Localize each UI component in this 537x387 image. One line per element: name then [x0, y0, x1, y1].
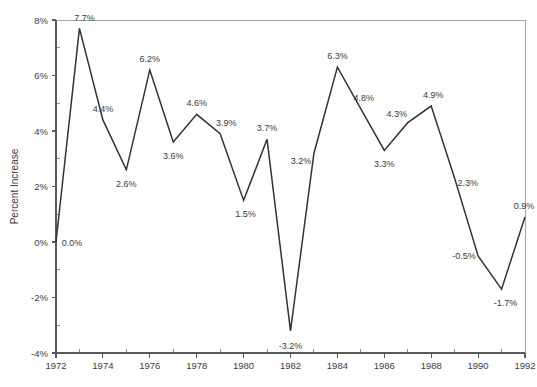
data-point-label: 2.3%	[457, 178, 478, 188]
data-point-label: 3.9%	[216, 118, 237, 128]
y-tick-label: 6%	[34, 70, 48, 81]
y-tick-label: -2%	[31, 292, 48, 303]
x-axis-major-ticks	[56, 353, 525, 358]
data-point-label: 4.8%	[354, 93, 375, 103]
y-tick-label: 8%	[34, 15, 48, 26]
x-tick-label: 1980	[233, 360, 254, 371]
data-point-label: 4.4%	[93, 104, 114, 114]
y-tick-label: -4%	[31, 348, 48, 359]
data-point-label: 4.3%	[386, 109, 407, 119]
x-tick-label: 1984	[327, 360, 348, 371]
x-tick-label: 1986	[374, 360, 395, 371]
line-chart-figure: 8%6%4%2%0%-2%-4% 19721974197619781980198…	[0, 0, 537, 387]
data-point-label: 7.7%	[74, 13, 95, 23]
y-tick-label: 2%	[34, 181, 48, 192]
data-point-label: 3.6%	[163, 151, 184, 161]
data-point-label: 6.2%	[140, 54, 161, 64]
data-point-label: 3.2%	[291, 156, 312, 166]
data-point-label: 4.6%	[186, 98, 207, 108]
data-point-label: 6.3%	[327, 51, 348, 61]
data-point-label: 0.9%	[514, 201, 535, 211]
y-axis-title: Percent Increase	[9, 148, 20, 224]
x-tick-label: 1982	[280, 360, 301, 371]
x-axis-tick-labels: 1972197419761978198019821984198619881990…	[45, 360, 535, 371]
data-point-label: -3.2%	[279, 341, 303, 351]
x-tick-label: 1972	[45, 360, 66, 371]
x-tick-label: 1974	[92, 360, 113, 371]
data-point-labels: 0.0%7.7%4.4%2.6%6.2%3.6%4.6%3.9%1.5%3.7%…	[62, 13, 535, 350]
data-point-label: -1.7%	[494, 298, 518, 308]
data-point-label: 4.9%	[423, 90, 444, 100]
chart-canvas: 8%6%4%2%0%-2%-4% 19721974197619781980198…	[0, 0, 537, 387]
y-axis-tick-labels: 8%6%4%2%0%-2%-4%	[31, 15, 48, 359]
y-tick-label: 4%	[34, 126, 48, 137]
data-point-label: 0.0%	[62, 238, 83, 248]
data-point-label: 1.5%	[235, 209, 256, 219]
x-tick-label: 1990	[468, 360, 489, 371]
x-tick-label: 1976	[139, 360, 160, 371]
data-point-label: 2.6%	[116, 179, 137, 189]
x-tick-label: 1992	[514, 360, 535, 371]
data-point-label: 3.7%	[257, 123, 278, 133]
y-tick-label: 0%	[34, 237, 48, 248]
x-tick-label: 1988	[421, 360, 442, 371]
data-point-label: -0.5%	[452, 251, 476, 261]
x-tick-label: 1978	[186, 360, 207, 371]
data-point-label: 3.3%	[374, 159, 395, 169]
